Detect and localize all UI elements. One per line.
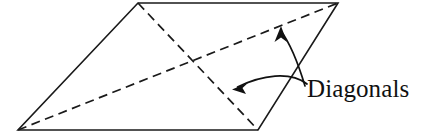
parallelogram-diagram: Diagonals bbox=[0, 0, 443, 140]
diagonals-label: Diagonals bbox=[307, 75, 409, 102]
diagram-canvas: Diagonals bbox=[0, 0, 443, 140]
